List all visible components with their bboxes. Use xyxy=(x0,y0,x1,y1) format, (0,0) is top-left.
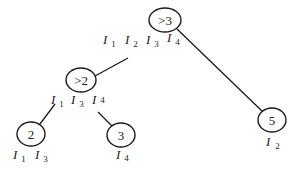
edge-gt2-to-2 xyxy=(40,104,55,124)
root-item-labels: I1 I2 I3 I4 xyxy=(102,30,180,49)
node-5-label: 5 xyxy=(269,113,276,128)
edge-root-to-gt2 xyxy=(95,58,128,76)
edge-gt2-to-3 xyxy=(98,112,112,126)
node-gt2: >2 xyxy=(66,68,96,92)
node-gt3: >3 xyxy=(149,8,181,32)
item-label: I3 xyxy=(34,147,48,164)
item-label: I3 xyxy=(145,32,159,49)
item-label: I2 xyxy=(124,32,138,49)
item-label: I4 xyxy=(115,147,129,163)
node-2: 2 xyxy=(17,122,45,146)
node-5: 5 xyxy=(258,108,286,132)
node-2-label: 2 xyxy=(28,127,35,142)
node-3-label: 3 xyxy=(118,128,125,143)
item-label: I2 xyxy=(265,134,280,151)
n2-item-labels: I1 I3 xyxy=(12,147,48,164)
node-gt2-label: >2 xyxy=(74,73,88,88)
n3-item-labels: I4 xyxy=(115,147,129,163)
n5-item-labels: I2 xyxy=(265,134,280,151)
item-label: I1 xyxy=(102,32,116,49)
item-label: I4 xyxy=(91,92,105,107)
item-label: I3 xyxy=(70,92,84,109)
tree-diagram: >3 >2 2 3 5 I1 I2 I3 I4 I1 I3 I4 I1 I3 I… xyxy=(0,0,301,175)
item-label: I1 xyxy=(12,147,26,164)
gt2-item-labels: I1 I3 I4 xyxy=(50,92,105,109)
node-3: 3 xyxy=(107,123,135,147)
item-label: I4 xyxy=(166,30,180,47)
item-label: I1 xyxy=(50,92,64,109)
node-gt3-label: >3 xyxy=(158,13,172,28)
edge-root-to-5 xyxy=(177,29,263,112)
